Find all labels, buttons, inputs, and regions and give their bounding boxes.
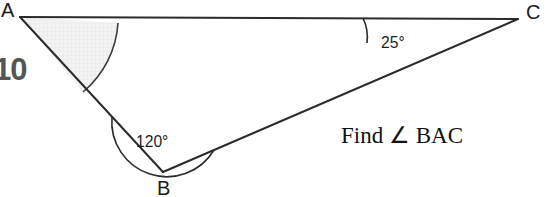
triangle-side-ac: [20, 17, 518, 19]
angle-a-shaded-sector: [20, 17, 118, 92]
angle-c-arc: [363, 18, 367, 43]
triangle-diagram-svg: [0, 0, 546, 197]
geometry-figure: A C B 120° 25° 10 Find ∠ BAC: [0, 0, 546, 197]
vertex-label-b: B: [157, 178, 170, 197]
triangle-side-bc: [163, 19, 518, 172]
angle-measure-c: 25°: [381, 34, 405, 51]
problem-number: 10: [0, 54, 26, 85]
vertex-label-a: A: [1, 0, 14, 20]
vertex-label-c: C: [526, 2, 540, 22]
angle-measure-b: 120°: [136, 133, 168, 150]
problem-prompt: Find ∠ BAC: [341, 124, 463, 147]
